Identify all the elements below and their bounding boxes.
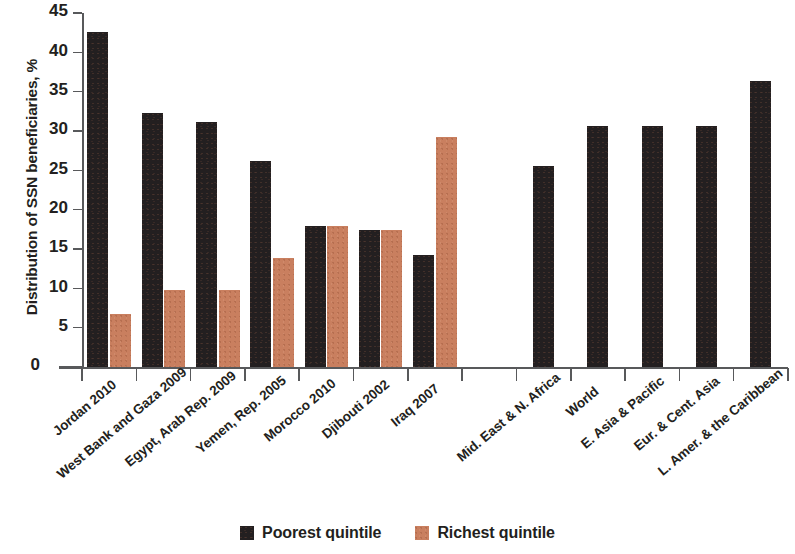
- bar-poorest-quintile: [587, 126, 608, 367]
- x-axis-label: E. Asia & Pacific: [578, 374, 667, 452]
- x-axis-tick: [81, 368, 83, 381]
- y-axis-tick: 10: [73, 288, 82, 290]
- y-axis-tick-label: 40: [49, 41, 68, 61]
- x-axis-tick: [516, 368, 518, 381]
- y-axis-tick: 5: [73, 327, 82, 329]
- x-axis-tick: [679, 368, 681, 381]
- y-axis-tick: 15: [73, 248, 82, 250]
- y-axis-tick-label: 35: [49, 80, 68, 100]
- legend-swatch-richest: [415, 526, 429, 540]
- y-axis-tick-label: 0: [31, 355, 40, 375]
- x-axis-label: Egypt, Arab Rep. 2009: [122, 368, 239, 469]
- bar-richest-quintile: [110, 314, 131, 367]
- x-axis-label: Eur. & Cent. Asia: [631, 373, 722, 453]
- y-axis-tick: 20: [73, 209, 82, 211]
- bar-poorest-quintile: [196, 122, 217, 367]
- x-axis-label: West Bank and Gaza 2009: [54, 365, 189, 482]
- y-axis-tick: 40: [73, 52, 82, 54]
- x-axis-tick: [461, 368, 463, 381]
- y-axis-tick-label: 10: [49, 277, 68, 297]
- legend-item: Poorest quintile: [240, 524, 381, 542]
- x-axis-tick: [136, 368, 138, 381]
- bar-poorest-quintile: [305, 226, 326, 367]
- bar-poorest-quintile: [696, 126, 717, 367]
- x-axis-tick: [733, 368, 735, 381]
- bar-poorest-quintile: [533, 166, 554, 367]
- y-axis-title: Distribution of SSN beneficiaries, %: [23, 7, 41, 367]
- x-axis-tick: [570, 368, 572, 381]
- x-axis-tick: [244, 368, 246, 381]
- bar-chart: Distribution of SSN beneficiaries, % 051…: [0, 0, 795, 554]
- x-axis-label: L. Amer. & the Caribbean: [655, 365, 785, 478]
- x-axis-label: Yemen, Rep. 2005: [193, 372, 289, 456]
- legend-swatch-poorest: [240, 526, 254, 540]
- x-axis-tick: [190, 368, 192, 381]
- y-axis-tick: 25: [73, 170, 82, 172]
- y-axis-tick-label: 20: [49, 198, 68, 218]
- bar-poorest-quintile: [642, 126, 663, 367]
- y-axis-tick-label: 30: [49, 119, 68, 139]
- x-axis-tick: [787, 368, 789, 381]
- y-axis-tick: 35: [73, 91, 82, 93]
- y-axis-tick: 45: [73, 12, 82, 14]
- bar-richest-quintile: [436, 137, 457, 367]
- bars-layer: [82, 13, 788, 367]
- bar-poorest-quintile: [142, 113, 163, 367]
- y-axis-tick-label: 25: [49, 159, 68, 179]
- x-axis-label: Iraq 2007: [388, 381, 442, 430]
- x-axis-tick: [407, 368, 409, 381]
- bar-richest-quintile: [164, 290, 185, 367]
- y-axis-tick: 0: [59, 366, 82, 368]
- chart-legend: Poorest quintileRichest quintile: [0, 524, 795, 542]
- bar-poorest-quintile: [413, 255, 434, 367]
- x-axis-label: Mid. East & N. Africa: [454, 370, 563, 465]
- x-axis-label: Morocco 2010: [261, 376, 339, 445]
- bar-poorest-quintile: [750, 81, 771, 367]
- x-axis-label: Djibouti 2002: [319, 377, 392, 442]
- x-axis-label: Jordan 2010: [50, 378, 119, 439]
- y-axis-tick-label: 45: [49, 1, 68, 21]
- y-axis-tick-label: 5: [59, 316, 68, 336]
- bar-richest-quintile: [273, 258, 294, 367]
- bar-poorest-quintile: [250, 161, 271, 367]
- x-axis-tick: [298, 368, 300, 381]
- x-axis-tick: [624, 368, 626, 381]
- x-axis-tick: [353, 368, 355, 381]
- legend-item: Richest quintile: [415, 524, 555, 542]
- bar-poorest-quintile: [87, 32, 108, 367]
- bar-richest-quintile: [381, 230, 402, 367]
- bar-richest-quintile: [219, 290, 240, 367]
- x-axis-label: World: [563, 384, 601, 420]
- legend-label: Richest quintile: [437, 524, 555, 542]
- y-axis-tick: 30: [73, 130, 82, 132]
- bar-richest-quintile: [327, 226, 348, 367]
- bar-poorest-quintile: [359, 230, 380, 367]
- legend-label: Poorest quintile: [262, 524, 381, 542]
- y-axis-tick-label: 15: [49, 237, 68, 257]
